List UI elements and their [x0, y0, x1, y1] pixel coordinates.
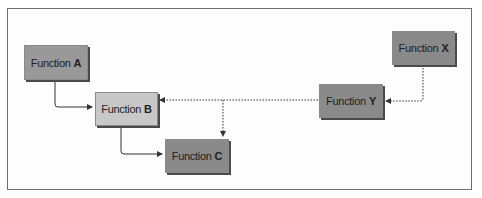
node-label: Function: [172, 150, 212, 162]
node-function-c[interactable]: FunctionC: [165, 139, 229, 173]
edge-x-to-y: [386, 65, 423, 101]
edge-b-to-c: [121, 127, 162, 154]
node-label: Function: [326, 95, 366, 107]
node-letter: Y: [369, 95, 376, 107]
node-function-b[interactable]: FunctionB: [95, 92, 158, 126]
node-letter: C: [215, 150, 223, 162]
node-label: Function: [101, 103, 141, 115]
node-letter: X: [441, 42, 448, 54]
node-function-x[interactable]: FunctionX: [392, 31, 455, 65]
node-function-a[interactable]: FunctionA: [24, 45, 88, 80]
node-letter: B: [144, 103, 152, 115]
node-letter: A: [74, 57, 82, 69]
node-function-y[interactable]: FunctionY: [319, 84, 383, 118]
edge-a-to-b: [55, 81, 92, 107]
connector-lines: [0, 0, 482, 198]
node-label: Function: [399, 42, 439, 54]
node-label: Function: [31, 57, 71, 69]
